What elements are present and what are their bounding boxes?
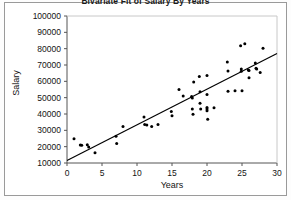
data-point — [80, 144, 83, 147]
data-point — [150, 125, 153, 128]
scatter-plot: 1000020000300004000050000600007000080000… — [0, 0, 291, 200]
x-axis-label: Years — [67, 180, 277, 190]
y-tick-label: 60000 — [37, 76, 61, 86]
data-point — [240, 70, 243, 73]
y-tick-label: 50000 — [37, 93, 61, 103]
data-point — [94, 151, 97, 154]
x-tick-label: 5 — [100, 168, 105, 178]
data-point — [226, 61, 229, 64]
data-point — [115, 142, 118, 145]
chart-screenshot: Bivariate Fit of Salary By Years 1000020… — [0, 0, 291, 200]
data-point — [182, 95, 185, 98]
data-point — [192, 113, 195, 116]
data-point — [213, 106, 216, 109]
data-point — [192, 80, 195, 83]
data-point — [248, 76, 251, 79]
y-tick-label: 90000 — [37, 27, 61, 37]
data-point — [234, 89, 237, 92]
data-point — [191, 96, 194, 99]
data-point — [198, 75, 201, 78]
data-point — [122, 125, 125, 128]
regression-fit-line — [67, 54, 277, 161]
data-point — [227, 90, 230, 93]
x-tick-label: 0 — [65, 168, 70, 178]
x-tick-label: 10 — [132, 168, 142, 178]
y-tick-label: 40000 — [37, 109, 61, 119]
x-tick-label: 15 — [167, 168, 177, 178]
y-tick-label: 30000 — [37, 125, 61, 135]
y-tick-label: 80000 — [37, 44, 61, 54]
y-tick-label: 10000 — [37, 158, 61, 168]
y-tick-label: 20000 — [37, 142, 61, 152]
data-point — [87, 145, 90, 148]
data-point — [206, 118, 209, 121]
x-tick-label: 30 — [272, 168, 282, 178]
x-tick-label: 20 — [202, 168, 212, 178]
data-point — [259, 71, 262, 74]
data-point — [239, 44, 242, 47]
data-point — [73, 137, 76, 140]
data-point — [262, 47, 265, 50]
data-point — [241, 89, 244, 92]
data-point — [206, 93, 209, 96]
data-point — [171, 114, 174, 117]
data-point — [206, 109, 209, 112]
data-point — [143, 115, 146, 118]
y-tick-label: 70000 — [37, 60, 61, 70]
y-tick-label: 100000 — [33, 11, 62, 21]
data-point — [206, 74, 209, 77]
data-point — [191, 108, 194, 111]
data-point — [178, 88, 181, 91]
y-axis-label: Salary — [11, 53, 21, 113]
data-point — [248, 69, 251, 72]
data-point — [199, 90, 202, 93]
data-point — [199, 108, 202, 111]
data-point — [145, 124, 148, 127]
data-point — [199, 102, 202, 105]
data-point — [255, 67, 258, 70]
x-tick-label: 25 — [237, 168, 247, 178]
data-point — [115, 135, 118, 138]
data-point — [227, 70, 230, 73]
data-point — [157, 123, 160, 126]
data-point — [170, 110, 173, 113]
data-point — [254, 62, 257, 65]
data-point — [243, 42, 246, 45]
